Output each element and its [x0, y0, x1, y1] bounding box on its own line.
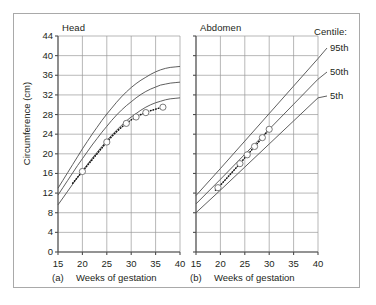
measurement-marker — [79, 168, 85, 174]
measurement-marker — [123, 120, 129, 126]
measurement-marker — [237, 161, 243, 167]
chart-canvas — [0, 0, 376, 305]
centile-curve-95th — [196, 59, 318, 196]
measurement-marker — [244, 152, 250, 158]
measurement-marker — [104, 139, 110, 145]
centile-curve-5th — [196, 98, 318, 213]
legend-connector-50th — [318, 72, 327, 79]
measurement-marker — [266, 126, 272, 132]
measurement-marker — [259, 135, 265, 141]
measurement-marker — [215, 185, 221, 191]
measurement-marker — [251, 143, 257, 149]
head-panel-plot — [55, 36, 180, 255]
centile-curve-50th — [196, 79, 318, 204]
centile-curve-5th — [58, 98, 180, 205]
measurement-marker — [143, 109, 149, 115]
legend-connector-5th — [318, 96, 327, 98]
measurement-trace — [73, 107, 166, 184]
legend-connector-95th — [318, 48, 327, 59]
measurement-marker — [160, 104, 166, 110]
legend-connector-lines — [318, 48, 327, 98]
abdomen-panel-plot — [193, 36, 318, 255]
figure-root: Head Abdomen Centile: 95th 50th 5th Circ… — [0, 0, 376, 305]
measurement-marker — [133, 114, 139, 120]
